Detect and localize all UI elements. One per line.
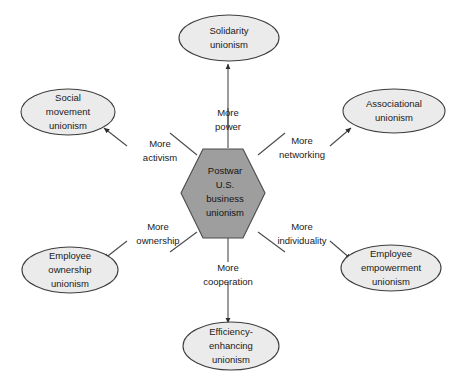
edge-label-ownership-line-1: More <box>147 221 169 232</box>
edge-label-activism-line-1: More <box>149 138 171 149</box>
edge-label-networking-line-1: More <box>291 135 313 146</box>
node-efficiency-enhancing[interactable]: Efficiency- enhancing unionism <box>183 322 279 370</box>
center-label-line-1: Postwar <box>208 165 242 176</box>
diagram-canvas: Postwar U.S. business unionism Solidarit… <box>0 0 452 385</box>
diagram-svg: Postwar U.S. business unionism Solidarit… <box>0 0 452 385</box>
node-employee-ownership-line-1: Employee <box>49 250 91 261</box>
node-employee-empowerment-line-3: unionism <box>372 276 410 287</box>
edge-label-power-line-1: More <box>217 107 239 118</box>
edge-label-cooperation: More cooperation <box>203 262 253 287</box>
node-employee-empowerment[interactable]: Employee empowerment unionism <box>341 245 441 291</box>
node-social-movement-line-1: Social <box>55 92 81 103</box>
center-label-line-4: unionism <box>206 207 244 218</box>
node-associational-line-2: unionism <box>375 112 413 123</box>
edge-label-individuality: More individuality <box>277 221 326 246</box>
edge-label-cooperation-line-2: cooperation <box>203 276 253 287</box>
edge-label-individuality-line-2: individuality <box>277 235 326 246</box>
node-efficiency-enhancing-line-1: Efficiency- <box>209 326 253 337</box>
edge-label-networking-line-2: networking <box>279 149 325 160</box>
edge-label-cooperation-line-1: More <box>217 262 239 273</box>
node-efficiency-enhancing-line-3: unionism <box>212 354 250 365</box>
node-associational[interactable]: Associational unionism <box>343 89 445 133</box>
node-social-movement-line-2: movement <box>46 106 91 117</box>
node-efficiency-enhancing-line-2: enhancing <box>209 340 253 351</box>
edge-label-power-line-2: power <box>215 121 241 132</box>
node-solidarity-line-1: Solidarity <box>209 25 248 36</box>
edge-label-ownership: More ownership <box>136 221 179 246</box>
node-solidarity[interactable]: Solidarity unionism <box>179 15 279 61</box>
connector-networking-arrow <box>330 128 351 146</box>
node-social-movement-line-3: unionism <box>49 120 87 131</box>
center-label-line-2: U.S. <box>216 179 234 190</box>
node-employee-empowerment-line-1: Employee <box>370 248 412 259</box>
node-associational-line-1: Associational <box>366 98 422 109</box>
center-label-line-3: business <box>206 193 244 204</box>
edge-label-activism: More activism <box>143 138 177 163</box>
edge-label-individuality-line-1: More <box>291 221 313 232</box>
edge-label-networking: More networking <box>279 135 325 160</box>
edge-label-ownership-line-2: ownership <box>136 235 179 246</box>
node-employee-ownership[interactable]: Employee ownership unionism <box>22 247 118 293</box>
connector-activism-arrow <box>104 128 127 146</box>
node-employee-ownership-line-2: ownership <box>48 264 91 275</box>
center-node-hexagon[interactable]: Postwar U.S. business unionism <box>181 149 265 238</box>
node-solidarity-line-2: unionism <box>210 39 248 50</box>
node-employee-ownership-line-3: unionism <box>51 278 89 289</box>
edge-label-activism-line-2: activism <box>143 152 177 163</box>
node-employee-empowerment-line-2: empowerment <box>361 262 422 273</box>
node-social-movement[interactable]: Social movement unionism <box>21 89 115 135</box>
